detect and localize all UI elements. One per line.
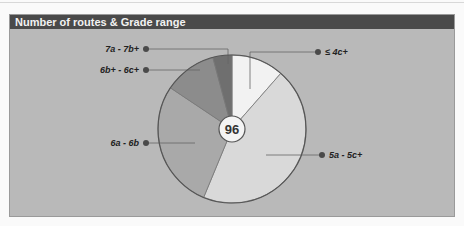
slice-label: 6a - 6b bbox=[110, 138, 139, 148]
callout-dot bbox=[315, 49, 321, 55]
slice-label: ≤ 4c+ bbox=[325, 47, 348, 57]
callout-dot bbox=[319, 152, 325, 158]
callout-dot bbox=[143, 46, 149, 52]
callout-dot bbox=[143, 67, 149, 73]
total-count: 96 bbox=[225, 122, 239, 137]
slice-label: 5a - 5c+ bbox=[329, 150, 363, 160]
pie-chart: ≤ 4c+5a - 5c+6a - 6b6b+ - 6c+7a - 7b+ 96 bbox=[0, 0, 464, 226]
slice-label: 7a - 7b+ bbox=[105, 44, 140, 54]
slice-label: 6b+ - 6c+ bbox=[100, 65, 140, 75]
callout-dot bbox=[143, 140, 149, 146]
